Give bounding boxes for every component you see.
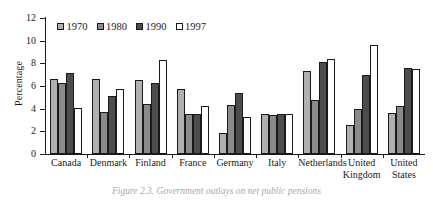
figure-caption: Figure 2.3. Government outlays on net pu… [0, 186, 433, 197]
bar-group [341, 18, 383, 154]
bar-italy-1970 [261, 114, 269, 154]
y-tick-mark [40, 154, 45, 155]
plot-area [45, 18, 425, 154]
x-label-united-states: United States [383, 157, 425, 180]
bar-canada-1970 [50, 79, 58, 154]
y-tick-label: 0 [6, 149, 36, 159]
bar-united-states-1980 [396, 106, 404, 154]
x-label-denmark: Denmark [87, 157, 129, 169]
bar-group [298, 18, 340, 154]
bar-italy-1980 [269, 115, 277, 154]
bar-france-1980 [185, 114, 193, 154]
x-label-france: France [172, 157, 214, 169]
bar-france-1997 [201, 106, 209, 154]
y-tick-label: 12 [6, 13, 36, 23]
bar-united-states-1970 [388, 113, 396, 154]
bar-united-states-1990 [404, 68, 412, 154]
bar-france-1990 [193, 114, 201, 154]
bar-denmark-1970 [92, 79, 100, 154]
bar-netherlands-1980 [311, 100, 319, 154]
bar-canada-1997 [74, 108, 82, 154]
y-tick-label: 4 [6, 104, 36, 114]
bar-finland-1980 [143, 104, 151, 154]
bar-germany-1990 [235, 93, 243, 154]
bar-denmark-1990 [108, 96, 116, 154]
bar-group [172, 18, 214, 154]
figure-container: Percentage 024681012 1970198019901997 Ca… [0, 0, 433, 200]
bar-netherlands-1970 [303, 71, 311, 154]
bar-germany-1980 [227, 105, 235, 154]
y-tick-label: 6 [6, 81, 36, 91]
bar-group [214, 18, 256, 154]
bar-netherlands-1997 [327, 59, 335, 154]
x-label-canada: Canada [45, 157, 87, 169]
bar-finland-1990 [151, 83, 159, 154]
bar-united-kingdom-1997 [370, 45, 378, 154]
bar-france-1970 [177, 89, 185, 154]
bar-group [45, 18, 87, 154]
bar-netherlands-1990 [319, 62, 327, 154]
x-label-united-kingdom: United Kingdom [341, 157, 383, 180]
bar-denmark-1980 [100, 112, 108, 154]
bar-group [87, 18, 129, 154]
x-label-finland: Finland [129, 157, 171, 169]
bar-group [383, 18, 425, 154]
y-tick-label: 2 [6, 126, 36, 136]
x-label-germany: Germany [214, 157, 256, 169]
bar-finland-1997 [159, 60, 167, 154]
bar-group [129, 18, 171, 154]
bar-canada-1990 [66, 73, 74, 154]
bar-united-kingdom-1980 [354, 109, 362, 154]
bar-germany-1997 [243, 117, 251, 154]
bar-canada-1980 [58, 83, 66, 154]
x-axis-line [45, 154, 425, 155]
bar-italy-1997 [285, 114, 293, 154]
bar-finland-1970 [135, 80, 143, 154]
y-tick-label: 10 [6, 36, 36, 46]
bar-united-kingdom-1970 [346, 125, 354, 154]
bar-united-kingdom-1990 [362, 75, 370, 154]
bar-denmark-1997 [116, 89, 124, 154]
bar-germany-1970 [219, 133, 227, 154]
y-tick-label: 8 [6, 58, 36, 68]
x-label-italy: Italy [256, 157, 298, 169]
bar-italy-1990 [277, 114, 285, 154]
bar-group [256, 18, 298, 154]
x-label-netherlands: Netherlands [298, 157, 340, 169]
bar-united-states-1997 [412, 69, 420, 154]
